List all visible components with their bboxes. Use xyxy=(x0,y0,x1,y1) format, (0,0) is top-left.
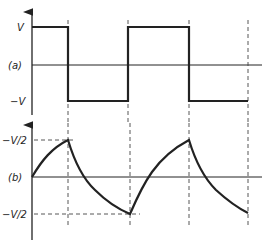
dashed-guides-b xyxy=(34,123,248,228)
label-v-half-low: −V/2 xyxy=(2,209,27,220)
square-wave xyxy=(32,27,248,101)
panel-b: −V/2 (b) −V/2 xyxy=(2,123,262,240)
label-v-half-high: −V/2 xyxy=(2,135,27,146)
label-v-low: −V xyxy=(10,96,26,107)
waveform-diagram: V (a) −V −V/2 (b) −V/2 xyxy=(0,0,270,246)
panel-a: V (a) −V xyxy=(8,12,262,123)
label-panel-b: (b) xyxy=(8,172,22,183)
label-v-high: V xyxy=(17,22,25,33)
label-panel-a: (a) xyxy=(8,60,22,71)
dashed-guides-a xyxy=(68,20,248,123)
